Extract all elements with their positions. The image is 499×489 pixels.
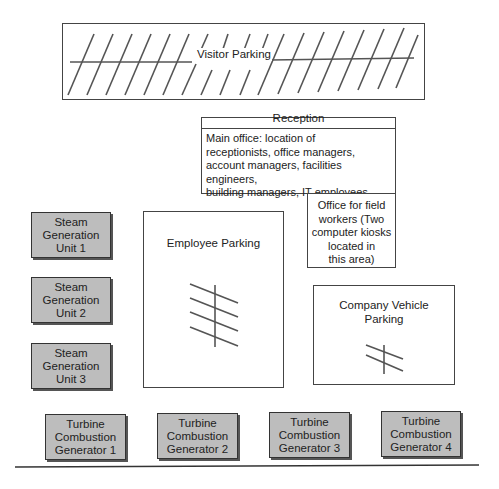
reception-building: Reception Main office: location of recep… [201,117,396,194]
steam-generation-unit-2: SteamGenerationUnit 2 [31,277,111,323]
field-workers-office: Office for field workers (Two computer k… [307,193,396,268]
reception-title: Reception [202,112,395,129]
visitor-parking-label: Visitor Parking [196,48,272,61]
turbine-combustion-generator-3: TurbineCombustionGenerator 3 [269,412,350,458]
turbine-combustion-generator-2: TurbineCombustionGenerator 2 [157,413,238,459]
turbine-combustion-generator-4: TurbineCombustionGenerator 4 [381,411,461,457]
employee-parking-label: Employee Parking [143,237,284,250]
steam-generation-unit-3: SteamGenerationUnit 3 [31,343,111,389]
steam-generation-unit-1: SteamGenerationUnit 1 [31,212,111,258]
main-office-description: Main office: location of receptionists, … [202,129,395,203]
company-vehicle-parking-label: Company Vehicle Parking [313,298,455,326]
turbine-combustion-generator-1: TurbineCombustionGenerator 1 [45,414,126,460]
